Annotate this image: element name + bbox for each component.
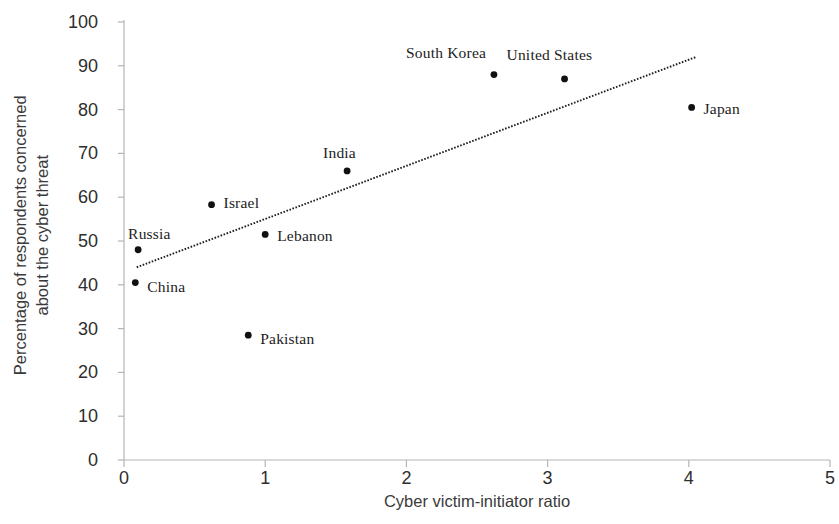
x-tick-label: 3: [528, 468, 568, 489]
y-tick-label: 80: [52, 99, 98, 120]
y-tick-label: 0: [52, 450, 98, 471]
data-point-marker: [344, 168, 351, 175]
data-point-marker: [688, 104, 695, 111]
y-tick-label: 40: [52, 274, 98, 295]
trendline: [137, 57, 696, 267]
y-tick-label: 70: [52, 143, 98, 164]
data-points: [132, 71, 695, 338]
data-point-label: India: [323, 144, 356, 162]
data-point-marker: [491, 71, 498, 78]
data-point-marker: [561, 76, 568, 83]
data-point-label: South Korea: [406, 44, 486, 62]
data-point-label: Israel: [224, 194, 260, 212]
y-tick-label: 20: [52, 362, 98, 383]
scatter-chart: Percentage of respondents concerned abou…: [0, 0, 839, 524]
data-point-marker: [208, 201, 215, 208]
data-point-marker: [135, 246, 142, 253]
data-point-label: Pakistan: [260, 330, 314, 348]
x-tick-label: 5: [810, 468, 839, 489]
data-point-marker: [245, 332, 252, 339]
y-tick-label: 100: [52, 12, 98, 33]
x-tick-label: 4: [669, 468, 709, 489]
y-tick-label: 50: [52, 231, 98, 252]
data-point-label: Lebanon: [277, 227, 333, 245]
y-tick-label: 30: [52, 318, 98, 339]
x-tick-label: 2: [386, 468, 426, 489]
data-point-marker: [262, 231, 269, 238]
x-tick-label: 0: [104, 468, 144, 489]
x-tick-label: 1: [245, 468, 285, 489]
data-point-marker: [132, 279, 139, 286]
y-tick-label: 10: [52, 406, 98, 427]
axes: [118, 20, 830, 467]
data-point-label: United States: [507, 46, 593, 64]
x-axis-title: Cyber victim-initiator ratio: [124, 492, 830, 511]
data-point-label: Japan: [704, 100, 740, 118]
y-tick-label: 90: [52, 55, 98, 76]
data-point-label: Russia: [128, 225, 171, 243]
y-tick-label: 60: [52, 187, 98, 208]
data-point-label: China: [147, 278, 185, 296]
plot-area: [0, 0, 839, 524]
